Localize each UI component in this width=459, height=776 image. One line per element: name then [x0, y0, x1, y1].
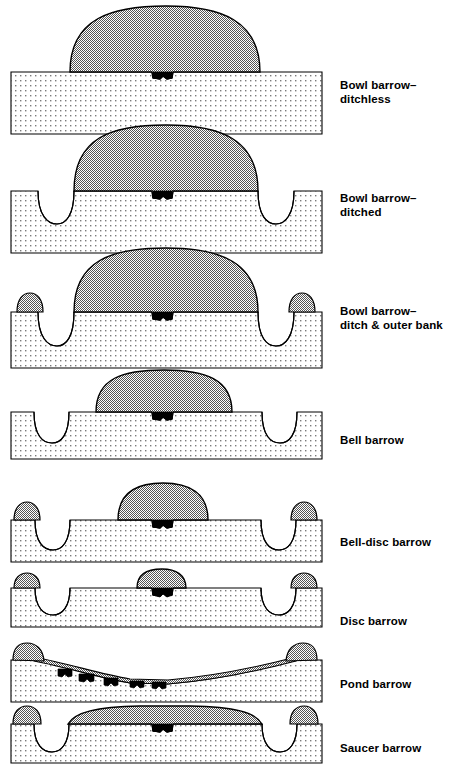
diagram-bell-disc-barrow [11, 483, 322, 562]
label-saucer-barrow: Saucer barrow [340, 742, 421, 756]
label-bowl-barrow-ditchless: Bowl barrow– ditchless [340, 79, 417, 106]
outer-bank-right [286, 643, 317, 661]
label-pond-barrow: Pond barrow [340, 678, 411, 692]
mound [74, 248, 258, 320]
label-bowl-barrow-ditched: Bowl barrow– ditched [340, 192, 417, 219]
diagram-bowl-barrow-ditchless [11, 6, 322, 134]
outer-bank-left [14, 502, 40, 520]
outer-bank-left [14, 573, 40, 588]
outer-bank-right [291, 573, 317, 588]
diagram-pond-barrow [11, 643, 322, 702]
outer-bank-left [17, 293, 43, 312]
outer-bank-right [291, 502, 317, 520]
outer-bank-right [289, 293, 315, 312]
label-bell-disc-barrow: Bell-disc barrow [340, 536, 431, 550]
label-bowl-barrow-ditch-outer-bank: Bowl barrow– ditch & outer bank [340, 305, 443, 332]
mound [74, 125, 258, 199]
barrow-types-figure: Bowl barrow– ditchless Bowl barrow– ditc… [0, 0, 459, 776]
diagram-disc-barrow [11, 569, 322, 627]
outer-bank-left [13, 643, 44, 661]
diagram-saucer-barrow [11, 706, 322, 763]
outer-bank-left [13, 706, 41, 724]
outer-bank-right [290, 706, 318, 724]
diagram-bell-barrow [11, 370, 322, 459]
diagram-bowl-barrow-ditch-outer-bank [11, 248, 322, 368]
label-disc-barrow: Disc barrow [340, 615, 407, 629]
ground-layer [11, 191, 322, 253]
diagram-bowl-barrow-ditched [11, 125, 322, 253]
mound [70, 6, 260, 79]
barrow-cross-sections-svg [0, 0, 459, 776]
label-bell-barrow: Bell barrow [340, 434, 404, 448]
